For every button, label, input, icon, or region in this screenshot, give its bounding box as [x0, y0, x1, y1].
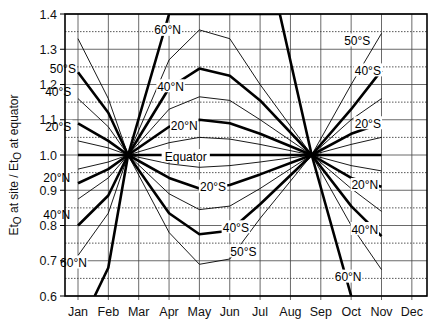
ylabel-part: at equator — [7, 95, 21, 152]
y-axis-label-container: EtO at site / EtO at equator — [2, 40, 28, 290]
ylabel-part: Et — [7, 224, 21, 235]
line-label: 40°N — [157, 80, 184, 94]
line-label: Equator — [165, 150, 207, 164]
line-label: 50°S — [230, 245, 256, 259]
line-label: 60°N — [335, 270, 362, 284]
x-tick-label: Jun — [220, 305, 240, 319]
x-tick-label: Dec — [401, 305, 423, 319]
x-tick-label: May — [188, 305, 212, 319]
line-label: 40°S — [355, 64, 381, 78]
x-tick-label: Mar — [128, 305, 150, 319]
line-label: 40°S — [223, 221, 249, 235]
x-tick-label: Oct — [341, 305, 361, 319]
x-tick-label: Feb — [98, 305, 120, 319]
y-tick-label: 0.8 — [40, 219, 57, 233]
x-tick-label: Jul — [252, 305, 268, 319]
line-label: 20°S — [200, 180, 226, 194]
y-tick-label: 1.4 — [40, 8, 57, 22]
x-tick-label: Apr — [159, 305, 178, 319]
line-label: 20°N — [351, 178, 378, 192]
x-tick-label: Nov — [370, 305, 393, 319]
y-axis-label: EtO at site / EtO at equator — [7, 95, 23, 236]
line-label: 20°N — [171, 119, 198, 133]
y-tick-label: 1.0 — [40, 149, 57, 163]
ylabel-sub: O — [12, 216, 23, 224]
y-tick-label: 0.9 — [40, 184, 57, 198]
x-axis-ticks: JanFebMarAprMayJunJulAugSepOctNovDec — [68, 305, 423, 319]
x-tick-label: Jan — [68, 305, 88, 319]
line-label: 40°N — [351, 223, 378, 237]
y-tick-label: 1.3 — [40, 43, 57, 57]
ylabel-sub: O — [12, 152, 23, 160]
y-tick-label: 1.2 — [40, 78, 57, 92]
line-label: 60°N — [154, 23, 181, 37]
line-labels: 60°N40°N20°NEquator20°S40°S50°S50°S40°S2… — [43, 23, 382, 284]
chart: 60°N40°N20°NEquator20°S40°S50°S50°S40°S2… — [0, 0, 439, 335]
line-label: 20°S — [355, 117, 381, 131]
x-tick-label: Aug — [279, 305, 301, 319]
ylabel-part: at site / Et — [7, 160, 21, 217]
y-tick-label: 1.1 — [40, 113, 57, 127]
line-label: 60°N — [60, 256, 87, 270]
line-label: 50°S — [50, 62, 76, 76]
x-tick-label: Sep — [310, 305, 332, 319]
y-tick-label: 0.7 — [40, 254, 57, 268]
y-tick-label: 0.6 — [40, 290, 57, 304]
line-label: 50°S — [344, 34, 370, 48]
